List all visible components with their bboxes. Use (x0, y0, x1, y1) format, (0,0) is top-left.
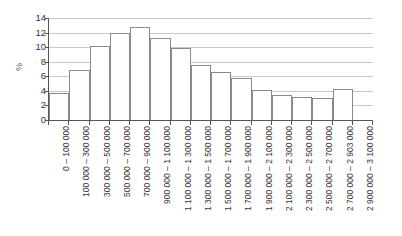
bar-slot (110, 18, 130, 120)
bar-slot (90, 18, 110, 120)
bar-slot (272, 18, 292, 120)
x-label-slot: 1 900 000 – 2 100 000 (251, 126, 271, 232)
x-axis-tickmark (190, 120, 191, 125)
bar-slot (231, 18, 251, 120)
x-label-slot: 2 100 000 – 2 300 000 (271, 126, 291, 232)
bar[interactable] (69, 70, 89, 120)
bar-slot (353, 18, 373, 120)
bar[interactable] (49, 93, 69, 120)
x-axis-tickmark (352, 120, 353, 125)
x-label-slot: 900 000 – 1 100 000 (149, 126, 169, 232)
plot-area (48, 18, 373, 121)
bar[interactable] (231, 78, 251, 120)
x-axis-tickmark (149, 120, 150, 125)
x-label-slot: 1 500 000 – 1 700 000 (210, 126, 230, 232)
x-axis-tickmark (68, 120, 69, 125)
x-axis-tickmarks (48, 120, 372, 125)
bar[interactable] (292, 97, 312, 120)
y-axis-tick-label: 10 (26, 42, 46, 52)
bar-slot (191, 18, 211, 120)
bar[interactable] (333, 89, 353, 120)
bar-slot (252, 18, 272, 120)
y-axis-tick-label: 4 (26, 86, 46, 96)
x-label-slot: 2 300 000 – 2 500 000 (291, 126, 311, 232)
x-axis-tickmark (311, 120, 312, 125)
x-axis-tickmark (210, 120, 211, 125)
bar[interactable] (272, 95, 292, 120)
bar-slot (130, 18, 150, 120)
x-label-slot: 2 500 000 – 2 700 000 (311, 126, 331, 232)
x-axis-category-label: 2 900 000 – 3 100 000 (366, 126, 375, 211)
bars-layer (49, 18, 373, 120)
bar-slot (312, 18, 332, 120)
x-axis-tickmark (109, 120, 110, 125)
x-label-slot: 100 000 – 300 000 (68, 126, 88, 232)
x-axis-tickmark (129, 120, 130, 125)
y-axis-tick-label: 6 (26, 71, 46, 81)
bar[interactable] (171, 48, 191, 120)
bar[interactable] (150, 38, 170, 120)
bar-slot (292, 18, 312, 120)
bar[interactable] (312, 98, 332, 120)
bar[interactable] (191, 65, 211, 120)
bar[interactable] (90, 46, 110, 120)
x-label-slot: 2 900 000 – 3 100 000 (352, 126, 372, 232)
x-label-slot: 300 000 – 500 000 (89, 126, 109, 232)
bar-slot (150, 18, 170, 120)
x-axis-tickmark (332, 120, 333, 125)
x-axis-tickmark (48, 120, 49, 125)
bar-slot (333, 18, 353, 120)
bar-slot (211, 18, 231, 120)
x-axis-tickmark (372, 120, 373, 125)
y-axis-tick-labels: 02468101214 (26, 13, 46, 123)
x-axis-category-labels: 0 – 100 000100 000 – 300 000300 000 – 50… (48, 126, 372, 232)
x-label-slot: 2 700 000 – 2 903 000 (332, 126, 352, 232)
bar-slot (69, 18, 89, 120)
y-axis-tick-label: 14 (26, 13, 46, 23)
bar-slot (49, 18, 69, 120)
x-axis-tickmark (170, 120, 171, 125)
y-axis-title: % (14, 56, 24, 78)
x-axis-tickmark (251, 120, 252, 125)
bar-slot (171, 18, 191, 120)
x-label-slot: 500 000 – 700 000 (109, 126, 129, 232)
x-label-slot: 1 300 000 – 1 500 000 (190, 126, 210, 232)
x-label-slot: 1 100 000 – 1 300 000 (170, 126, 190, 232)
y-axis-tick-label: 2 (26, 100, 46, 110)
bar[interactable] (252, 90, 272, 120)
x-label-slot: 1 700 000 – 1 900 000 (230, 126, 250, 232)
bar[interactable] (110, 33, 130, 120)
bar[interactable] (211, 72, 231, 120)
x-label-slot: 0 – 100 000 (48, 126, 68, 232)
y-axis-tick-label: 12 (26, 28, 46, 38)
x-axis-tickmark (230, 120, 231, 125)
bar-chart: % 02468101214 0 – 100 000100 000 – 300 0… (0, 0, 402, 236)
y-axis-tick-label: 8 (26, 57, 46, 67)
x-axis-tickmark (291, 120, 292, 125)
x-label-slot: 700 000 – 900 000 (129, 126, 149, 232)
x-axis-tickmark (271, 120, 272, 125)
x-axis-tickmark (89, 120, 90, 125)
y-axis-tick-label: 0 (26, 115, 46, 125)
bar[interactable] (130, 27, 150, 120)
